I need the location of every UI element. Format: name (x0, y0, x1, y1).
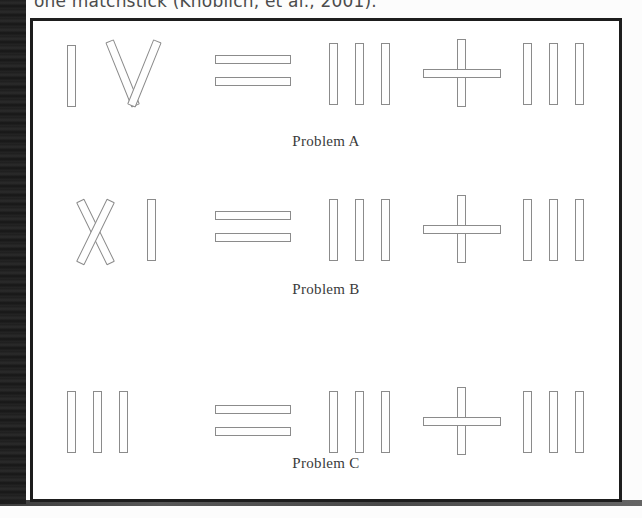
matchstick-vertical (523, 199, 532, 261)
matchstick-vertical (549, 199, 558, 261)
matchstick-horizontal (215, 405, 291, 414)
matchstick-vertical (381, 391, 390, 453)
numeral-c-left-III (67, 387, 167, 459)
caption-text-above-figure: one matchstick (Knoblich, et al., 2001). (34, 0, 454, 11)
numeral-a-left-IV (61, 39, 181, 111)
matchstick-vertical (355, 43, 364, 105)
matchstick-vertical (575, 391, 584, 453)
problem-row-a: Problem A (33, 25, 619, 175)
operator-equals-c (215, 405, 299, 445)
matchstick-horizontal (215, 55, 291, 64)
matchstick-vertical (575, 199, 584, 261)
matchstick-vertical (381, 199, 390, 261)
matchstick-horizontal (423, 225, 501, 234)
matchstick-horizontal (423, 417, 501, 426)
scan-artifact-left-gutter (0, 0, 26, 504)
figure-frame: Problem A (30, 18, 622, 502)
equation-b (33, 181, 619, 281)
numeral-c-right-III (523, 387, 603, 459)
operator-equals-a (215, 55, 299, 95)
equation-c (33, 361, 619, 461)
matchstick-vertical (119, 391, 128, 453)
equation-a (33, 25, 619, 125)
matchstick-vertical (147, 199, 156, 261)
scanned-page: one matchstick (Knoblich, et al., 2001). (0, 0, 642, 518)
matchstick-vertical (523, 391, 532, 453)
problem-label-a: Problem A (33, 133, 619, 150)
matchstick-vertical (93, 391, 102, 453)
operator-plus-a (419, 39, 503, 111)
numeral-b-left-XI (61, 195, 181, 267)
matchstick-vertical (355, 199, 364, 261)
matchstick-horizontal (215, 427, 291, 436)
matchstick-vertical (355, 391, 364, 453)
problem-label-c: Problem C (33, 455, 619, 472)
matchstick-horizontal (423, 69, 501, 78)
matchstick-horizontal (215, 233, 291, 242)
matchstick-vertical (523, 43, 532, 105)
matchstick-vertical (549, 391, 558, 453)
operator-plus-c (419, 387, 503, 459)
numeral-b-right-III (523, 195, 603, 267)
matchstick-vertical (381, 43, 390, 105)
matchstick-diagonal (127, 39, 162, 107)
matchstick-horizontal (215, 211, 291, 220)
matchstick-vertical (329, 199, 338, 261)
problem-row-b: Problem B (33, 181, 619, 331)
operator-equals-b (215, 211, 299, 251)
matchstick-vertical (329, 391, 338, 453)
matchstick-vertical (575, 43, 584, 105)
problem-label-b: Problem B (33, 281, 619, 298)
matchstick-vertical (549, 43, 558, 105)
matchstick-vertical (67, 391, 76, 453)
numeral-a-right-III (523, 39, 603, 111)
matchstick-vertical (67, 45, 76, 107)
numeral-b-middle-III (329, 195, 409, 267)
problem-row-c: Problem C (33, 361, 619, 511)
operator-plus-b (419, 195, 503, 267)
numeral-c-middle-III (329, 387, 409, 459)
matchstick-vertical (329, 43, 338, 105)
matchstick-horizontal (215, 77, 291, 86)
numeral-a-middle-III (329, 39, 409, 111)
